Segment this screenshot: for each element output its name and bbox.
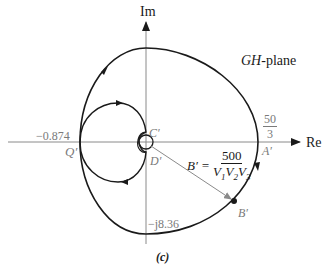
real-axis-label: Re: [306, 136, 322, 150]
b-equation-denominator: V1V2V3: [213, 164, 250, 182]
q-point-label: Q′: [65, 145, 77, 158]
a-point-label: A′: [262, 145, 272, 157]
arrow-inner-upper: [116, 100, 123, 106]
b-point: [231, 198, 237, 204]
outer-contour: [80, 48, 258, 234]
arrow-outer-right: [254, 162, 260, 171]
b-point-label: B′: [238, 207, 248, 219]
plane-label-rest: -plane: [261, 53, 296, 68]
b-equation-lhs: B′ =: [187, 158, 210, 173]
b-equation-numerator: 500: [221, 149, 243, 164]
plane-label-italic: GH: [241, 53, 261, 68]
plane-label: GH-plane: [241, 54, 296, 68]
b-equation: B′ = 500 V1V2V3: [187, 149, 250, 182]
imag-axis-label: Im: [140, 5, 156, 19]
c-point-label: C′: [149, 127, 160, 139]
d-point-label: D′: [150, 155, 161, 167]
a-value-fraction: 503: [263, 113, 277, 140]
q-value-label: −0.874: [36, 130, 70, 142]
arrow-inner-lower: [121, 179, 128, 185]
a-value-denominator: 3: [267, 127, 273, 140]
arrow-outer-upper: [101, 66, 108, 75]
a-value-numerator: 50: [263, 113, 277, 127]
figure-caption: (c): [156, 251, 169, 263]
imag-intercept-label: −j8.36: [148, 218, 179, 230]
